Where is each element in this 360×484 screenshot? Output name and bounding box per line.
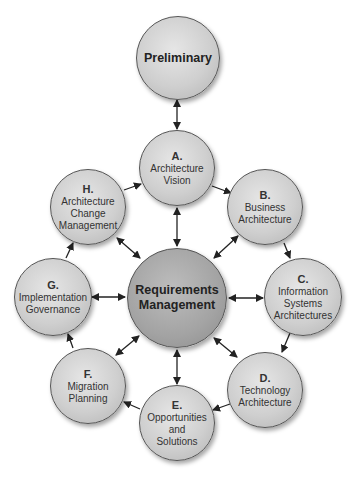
- node-letter: H.: [83, 183, 94, 196]
- node-h-architecture-change-management: H. Architecture Change Management: [50, 169, 126, 245]
- node-g-implementation-governance: G. Implementation Governance: [14, 258, 92, 336]
- node-letter: F.: [84, 368, 93, 381]
- node-d-technology-architecture: D. Technology Architecture: [227, 352, 303, 428]
- node-e-opportunities-and-solutions: E. Opportunities and Solutions: [139, 385, 215, 461]
- node-b-business-architecture: B. Business Architecture: [227, 169, 303, 245]
- node-label: Technology: [240, 385, 291, 397]
- node-a-architecture-vision: A. Architecture Vision: [139, 130, 215, 206]
- node-preliminary: Preliminary: [136, 16, 220, 100]
- node-label: Architectures: [274, 310, 332, 322]
- node-label: Implementation: [19, 292, 87, 304]
- node-label: Architecture: [61, 196, 114, 208]
- node-label: Information: [278, 286, 328, 298]
- node-label: Management: [59, 220, 117, 232]
- node-label: Governance: [26, 304, 80, 316]
- node-letter: G.: [47, 279, 59, 292]
- node-letter: C.: [298, 273, 309, 286]
- node-label: Architecture: [238, 397, 291, 409]
- node-label: Planning: [69, 393, 108, 405]
- node-label: Requirements: [135, 283, 218, 298]
- node-requirements-management: Requirements Management: [127, 248, 227, 348]
- node-label: and: [169, 424, 186, 436]
- node-label: Preliminary: [144, 52, 212, 64]
- node-label: Migration: [67, 381, 108, 393]
- node-letter: B.: [260, 189, 271, 202]
- node-label: Systems: [284, 298, 322, 310]
- node-label: Management: [139, 298, 215, 313]
- node-letter: D.: [260, 372, 271, 385]
- node-label: Opportunities: [147, 412, 206, 424]
- node-label: Business: [245, 202, 286, 214]
- node-label: Change: [70, 208, 105, 220]
- node-label: Vision: [163, 175, 190, 187]
- node-letter: A.: [172, 150, 183, 163]
- node-label: Solutions: [156, 436, 197, 448]
- node-f-migration-planning: F. Migration Planning: [50, 348, 126, 424]
- node-letter: E.: [172, 399, 182, 412]
- node-c-information-systems-architectures: C. Information Systems Architectures: [264, 258, 342, 336]
- node-label: Architecture: [150, 163, 203, 175]
- node-label: Architecture: [238, 214, 291, 226]
